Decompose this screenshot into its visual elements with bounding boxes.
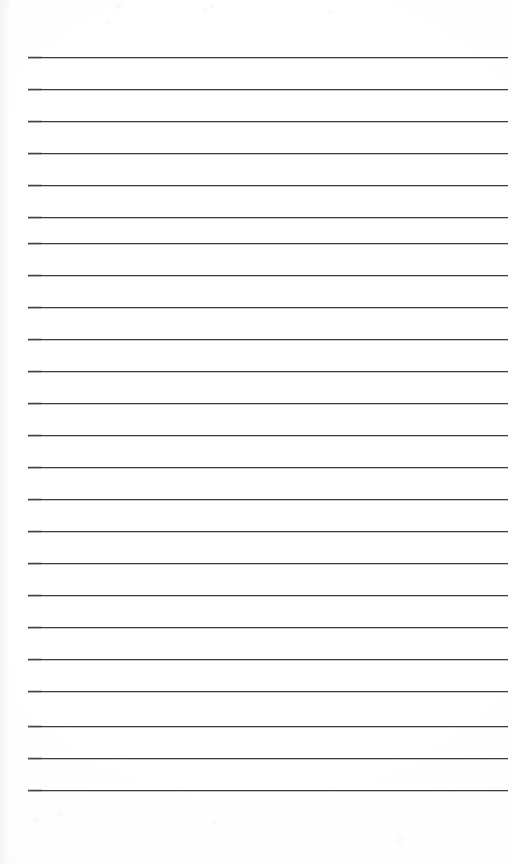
writing-area[interactable] (28, 48, 508, 800)
notebook-page (0, 0, 512, 864)
